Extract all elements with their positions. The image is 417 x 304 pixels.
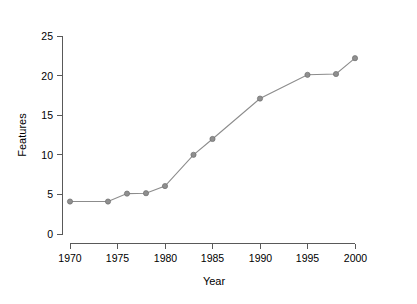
x-tick-label-1990: 1990 xyxy=(249,252,273,264)
x-tick-label-2000: 2000 xyxy=(344,252,368,264)
x-tick-label-1985: 1985 xyxy=(201,252,225,264)
y-tick-label-10: 10 xyxy=(41,149,53,161)
data-point xyxy=(143,191,148,196)
data-point xyxy=(305,72,310,77)
data-point xyxy=(124,191,129,196)
line-chart: 0 5 10 15 20 25 1970 1975 1980 1985 1990… xyxy=(0,0,417,304)
x-tick-label-1975: 1975 xyxy=(106,252,130,264)
x-tick-label-1995: 1995 xyxy=(296,252,320,264)
data-point xyxy=(191,152,196,157)
x-tick-label-1970: 1970 xyxy=(58,252,82,264)
data-point xyxy=(210,136,215,141)
data-point xyxy=(105,199,110,204)
y-tick-label-15: 15 xyxy=(41,109,53,121)
y-tick-label-0: 0 xyxy=(47,228,53,240)
y-tick-label-25: 25 xyxy=(41,30,53,42)
x-tick-label-1980: 1980 xyxy=(154,252,178,264)
x-axis-title: Year xyxy=(203,275,226,287)
data-point xyxy=(352,56,357,61)
data-point xyxy=(162,183,167,188)
data-point xyxy=(67,199,72,204)
data-point xyxy=(257,96,262,101)
y-axis-title: Features xyxy=(16,113,28,157)
chart-container: 0 5 10 15 20 25 1970 1975 1980 1985 1990… xyxy=(0,0,417,304)
data-point xyxy=(333,71,338,76)
y-tick-label-20: 20 xyxy=(41,70,53,82)
y-tick-label-5: 5 xyxy=(47,188,53,200)
